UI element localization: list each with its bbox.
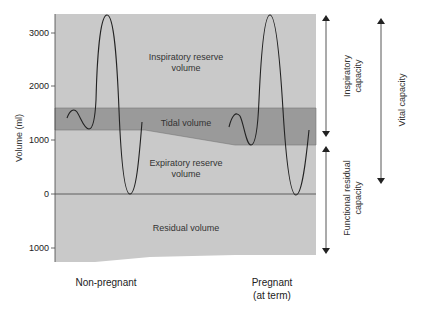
tidal-volume-label: Tidal volume [161, 118, 212, 128]
pregnant-label-line1: Pregnant [252, 277, 293, 288]
frc-line2: capacity [353, 181, 363, 215]
pregnant-label-line2: (at term) [253, 290, 291, 301]
inspiratory-capacity-line1: Inspiratory [342, 54, 352, 97]
nonpregnant-label: Non-pregnant [75, 277, 136, 288]
erv-label-line2: volume [171, 169, 200, 179]
y-tick-1000: 1000 [29, 135, 49, 145]
y-tick-neg-1000: 1000 [29, 243, 49, 253]
erv-label-line1: Expiratory reserve [149, 158, 222, 168]
residual-volume-label: Residual volume [153, 223, 220, 233]
lung-volumes-diagram: 3000 2000 1000 0 1000 Volume (ml) Inspir… [0, 0, 422, 317]
y-axis-label: Volume (ml) [14, 114, 24, 162]
frc-line1: Functional residual [342, 160, 352, 236]
y-tick-0: 0 [44, 189, 49, 199]
y-axis-ticks [51, 33, 55, 248]
y-tick-2000: 2000 [29, 81, 49, 91]
y-tick-3000: 3000 [29, 28, 49, 38]
vital-capacity-label: Vital capacity [397, 73, 407, 126]
inspiratory-capacity-line2: capacity [353, 59, 363, 93]
irv-label-line1: Inspiratory reserve [149, 52, 224, 62]
irv-label-line2: volume [171, 63, 200, 73]
